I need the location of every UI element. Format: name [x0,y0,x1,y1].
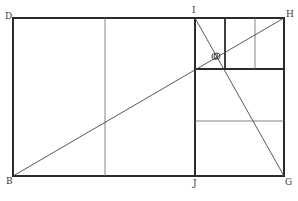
label-J: J [192,178,197,188]
label-I: I [192,5,196,15]
diagonal-BH [13,18,284,176]
golden-rectangle-diagram: D I H O B J G [0,0,298,201]
label-H: H [286,9,294,19]
label-G: G [285,177,292,187]
label-D: D [5,11,12,21]
label-O: O [211,52,218,62]
label-B: B [6,176,13,186]
diagonal-IG [195,18,284,176]
